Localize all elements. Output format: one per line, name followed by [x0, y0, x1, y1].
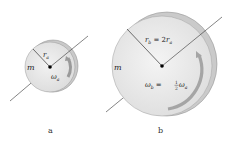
center-dot-a: [48, 65, 52, 69]
diagram-canvas: m ra ωa a m rb = 2ra ωb = 1 2 ωa b: [0, 0, 234, 142]
svg-text:ωb =: ωb =: [145, 81, 162, 90]
disk-b: m rb = 2ra ωb = 1 2 ωa b: [106, 12, 222, 135]
mass-label-b: m: [114, 63, 122, 72]
center-dot-b: [160, 64, 164, 68]
caption-b: b: [158, 126, 163, 135]
omega-frac-num: 1: [175, 80, 178, 85]
disk-a: m ra ωa a: [10, 36, 88, 135]
mass-label-a: m: [27, 63, 35, 72]
omega-frac-den: 2: [175, 86, 178, 91]
caption-a: a: [48, 126, 53, 135]
